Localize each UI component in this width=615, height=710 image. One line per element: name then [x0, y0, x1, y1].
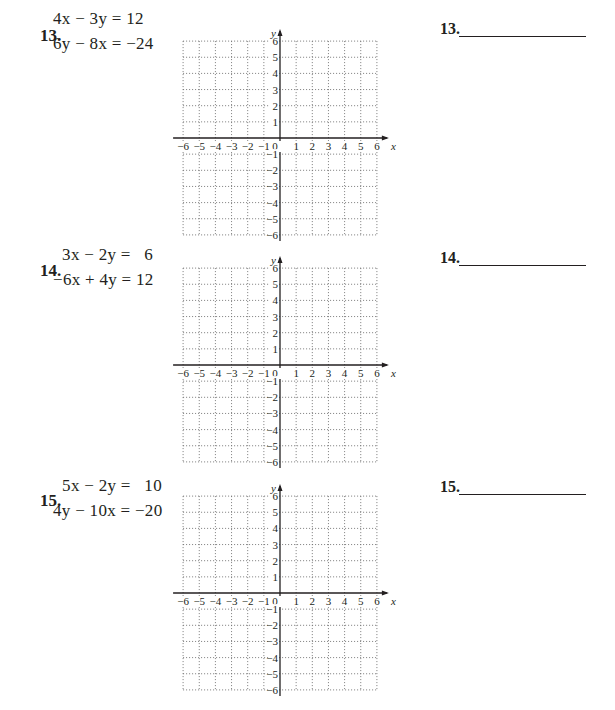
x-axis-label: x [390, 140, 396, 152]
y-tick-label: −6 [266, 456, 278, 468]
y-tick-label: −1 [266, 375, 278, 387]
y-tick-label: −5 [266, 668, 278, 680]
coordinate-grid[interactable]: −6−5−4−3−2−10123456654321−1−2−3−4−5−6xy [160, 479, 400, 701]
x-tick-label: 2 [310, 140, 316, 152]
x-tick-label: −3 [226, 140, 238, 152]
y-axis-label: y [270, 27, 276, 39]
answer-blank[interactable] [459, 265, 586, 266]
x-tick-label: −5 [193, 367, 205, 379]
equation-2: 6y − 8x = −24 [53, 34, 154, 54]
x-tick-label: −3 [226, 367, 238, 379]
y-tick-label: −1 [266, 603, 278, 615]
x-tick-label: 5 [358, 140, 364, 152]
x-tick-label: 2 [310, 595, 316, 607]
y-tick-label: −1 [266, 148, 278, 160]
x-tick-label: 5 [358, 367, 364, 379]
y-tick-label: −3 [266, 407, 278, 419]
y-axis-arrow-icon [278, 484, 283, 491]
x-axis-arrow-icon [382, 591, 389, 596]
x-axis-arrow-icon [382, 363, 389, 368]
y-tick-label: 2 [273, 100, 279, 112]
x-tick-label: 6 [374, 595, 380, 607]
x-tick-label: −4 [210, 595, 222, 607]
equation-1: 5x − 2y = 10 [53, 476, 162, 496]
x-tick-label: −2 [242, 367, 254, 379]
x-tick-label: 1 [293, 595, 299, 607]
x-axis-label: x [390, 367, 396, 379]
y-tick-label: −3 [266, 180, 278, 192]
x-tick-label: 3 [326, 595, 332, 607]
x-tick-label: −2 [242, 595, 254, 607]
x-axis-label: x [390, 595, 396, 607]
y-tick-label: −2 [266, 164, 278, 176]
y-tick-label: 3 [273, 311, 279, 323]
answer-label: 15. [440, 478, 460, 496]
x-tick-label: 3 [326, 367, 332, 379]
x-tick-label: 6 [374, 367, 380, 379]
x-tick-label: 4 [342, 140, 348, 152]
coordinate-grid[interactable]: −6−5−4−3−2−10123456654321−1−2−3−4−5−6xy [160, 24, 400, 246]
y-tick-label: −6 [266, 229, 278, 241]
x-tick-label: −4 [210, 367, 222, 379]
y-tick-label: −5 [266, 440, 278, 452]
y-axis-label: y [270, 482, 276, 494]
x-tick-label: −5 [193, 595, 205, 607]
x-tick-label: −6 [177, 595, 189, 607]
answer-label: 13. [440, 20, 460, 38]
answer-blank[interactable] [459, 36, 586, 37]
y-tick-label: 2 [273, 327, 279, 339]
x-tick-label: 6 [374, 140, 380, 152]
y-tick-label: −4 [266, 424, 278, 436]
y-tick-label: 5 [273, 506, 279, 518]
x-tick-label: 1 [293, 367, 299, 379]
y-tick-label: −5 [266, 213, 278, 225]
y-tick-label: 1 [273, 571, 279, 583]
y-tick-label: −6 [266, 684, 278, 696]
answer-blank[interactable] [459, 494, 586, 495]
y-tick-label: 3 [273, 84, 279, 96]
y-axis-arrow-icon [278, 256, 283, 263]
y-tick-label: −4 [266, 197, 278, 209]
equation-2: −6x + 4y = 12 [53, 270, 154, 290]
equation-1: 3x − 2y = 6 [53, 245, 153, 265]
x-tick-label: −6 [177, 367, 189, 379]
x-tick-label: −3 [226, 595, 238, 607]
x-tick-label: 1 [293, 140, 299, 152]
y-tick-label: 5 [273, 51, 279, 63]
y-tick-label: 3 [273, 539, 279, 551]
y-axis-label: y [270, 254, 276, 266]
x-tick-label: 2 [310, 367, 316, 379]
x-tick-label: −2 [242, 140, 254, 152]
x-tick-label: −6 [177, 140, 189, 152]
y-axis-arrow-icon [278, 29, 283, 36]
coordinate-grid[interactable]: −6−5−4−3−2−10123456654321−1−2−3−4−5−6xy [160, 251, 400, 473]
y-tick-label: 2 [273, 555, 279, 567]
y-tick-label: −4 [266, 652, 278, 664]
x-axis-arrow-icon [382, 136, 389, 141]
x-tick-label: −4 [210, 140, 222, 152]
answer-label: 14. [440, 249, 460, 267]
y-tick-label: −3 [266, 635, 278, 647]
y-tick-label: 5 [273, 278, 279, 290]
x-tick-label: 4 [342, 367, 348, 379]
y-tick-label: 4 [273, 522, 279, 534]
x-tick-label: 5 [358, 595, 364, 607]
equation-1: 4x − 3y = 12 [53, 9, 144, 29]
equation-2: 4y − 10x = −20 [53, 501, 162, 521]
x-tick-label: 3 [326, 140, 332, 152]
y-tick-label: 1 [273, 116, 279, 128]
x-tick-label: 4 [342, 595, 348, 607]
y-tick-label: 4 [273, 294, 279, 306]
x-tick-label: −5 [193, 140, 205, 152]
y-tick-label: −2 [266, 391, 278, 403]
y-tick-label: 1 [273, 343, 279, 355]
y-tick-label: 4 [273, 67, 279, 79]
y-tick-label: −2 [266, 619, 278, 631]
